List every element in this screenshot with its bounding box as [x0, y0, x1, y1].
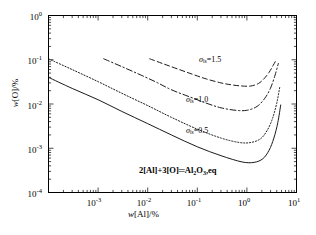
figure: 100 10-1 10-2 10-3 10-4 10-3 10-2 10-1 1… [0, 0, 316, 235]
x-axis-title: w[Al]/% [128, 209, 159, 219]
xtick-label: 10-1 [174, 196, 214, 208]
y-axis-title: w[O]/% [10, 58, 20, 128]
annotation-sigma-0-5: σls=0.5 [186, 126, 208, 135]
annotation-equation: 2[Al]+3[O]═Al2O3,eq [139, 165, 217, 176]
xtick-label: 10-2 [124, 196, 164, 208]
curve-3 [49, 59, 280, 143]
xtick-label: 100 [224, 196, 264, 208]
annotation-sigma-1-0: σls=1.0 [186, 95, 208, 104]
annotation-sigma-1-5: σls=1.5 [199, 55, 221, 64]
ytick-label: 10-4 [8, 187, 42, 199]
ytick-label: 100 [8, 10, 42, 22]
curve-4 [49, 77, 281, 162]
xtick-label: 10-3 [74, 196, 114, 208]
xtick-label: 101 [274, 196, 314, 208]
data-curves [49, 59, 281, 163]
ytick-label: 10-3 [8, 143, 42, 155]
